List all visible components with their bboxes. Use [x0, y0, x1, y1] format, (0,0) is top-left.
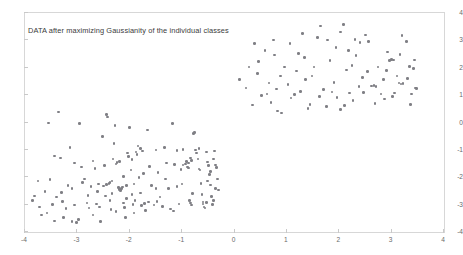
- data-point: [197, 158, 200, 161]
- data-point: [111, 192, 114, 195]
- data-point: [309, 103, 312, 106]
- data-point: [115, 210, 118, 213]
- plot-area: [24, 12, 445, 233]
- data-point: [171, 122, 174, 125]
- data-point: [406, 77, 409, 80]
- data-point: [155, 187, 158, 190]
- data-point: [382, 78, 385, 81]
- data-point: [313, 66, 316, 69]
- data-point: [352, 99, 355, 102]
- data-point: [178, 203, 181, 206]
- x-axis-tick-label: -4: [14, 236, 34, 243]
- data-points-layer: [25, 13, 444, 232]
- data-point: [133, 212, 136, 215]
- x-axis-tick-label: 0: [224, 236, 244, 243]
- data-point: [65, 207, 68, 210]
- data-point: [260, 94, 263, 97]
- data-point: [187, 162, 190, 165]
- data-point: [90, 185, 93, 188]
- data-point: [212, 199, 215, 202]
- data-point: [393, 92, 396, 95]
- data-point: [210, 195, 213, 198]
- data-point: [176, 149, 179, 152]
- data-point: [59, 157, 62, 160]
- data-point: [402, 82, 405, 85]
- x-axis-tick-label: 3: [381, 236, 401, 243]
- data-point: [303, 56, 306, 59]
- data-point: [180, 168, 183, 171]
- data-point: [276, 110, 279, 113]
- data-point: [361, 76, 364, 79]
- data-point: [125, 184, 128, 187]
- data-point: [362, 91, 365, 94]
- data-point: [301, 32, 304, 35]
- data-point: [71, 220, 74, 223]
- data-point: [266, 93, 269, 96]
- data-point: [205, 151, 208, 154]
- data-point: [270, 101, 273, 104]
- data-point: [176, 185, 179, 188]
- data-point: [410, 93, 413, 96]
- data-point: [347, 49, 350, 52]
- x-axis-tick-label: -3: [66, 236, 86, 243]
- data-point: [198, 147, 201, 150]
- data-point: [343, 104, 346, 107]
- data-point: [156, 200, 159, 203]
- data-point: [62, 216, 65, 219]
- data-point: [251, 104, 254, 107]
- data-point: [374, 102, 377, 105]
- data-point: [83, 178, 86, 181]
- data-point: [213, 150, 216, 153]
- data-point: [153, 204, 156, 207]
- data-point: [335, 46, 338, 49]
- page-title: DATA after maximizing Gaussianity of the…: [28, 26, 229, 35]
- data-point: [348, 92, 351, 95]
- data-point: [318, 95, 321, 98]
- data-point: [163, 146, 166, 149]
- data-point: [140, 204, 143, 207]
- data-point: [103, 164, 106, 167]
- data-point: [131, 193, 134, 196]
- data-point: [339, 108, 342, 111]
- data-point: [366, 70, 369, 73]
- data-point: [316, 36, 319, 39]
- data-point: [181, 183, 184, 186]
- data-point: [193, 131, 196, 134]
- data-point: [37, 180, 40, 183]
- y-axis-tick-label: -1: [445, 145, 463, 152]
- data-point: [92, 214, 95, 217]
- data-point: [132, 203, 135, 206]
- data-point: [319, 25, 322, 28]
- scatter-plot-figure: DATA after maximizing Gaussianity of the…: [0, 0, 463, 255]
- data-point: [88, 207, 91, 210]
- data-point: [377, 66, 380, 69]
- data-point: [409, 103, 412, 106]
- data-point: [392, 59, 395, 62]
- data-point: [206, 180, 209, 183]
- data-point: [128, 126, 131, 129]
- data-point: [207, 164, 210, 167]
- data-point: [77, 218, 80, 221]
- data-point: [138, 176, 141, 179]
- data-point: [155, 149, 158, 152]
- data-point: [415, 87, 418, 90]
- data-point: [380, 93, 383, 96]
- data-point: [150, 184, 153, 187]
- data-point: [111, 180, 114, 183]
- data-point: [143, 202, 146, 205]
- data-point: [97, 183, 100, 186]
- data-point: [245, 87, 248, 90]
- data-point: [96, 190, 99, 193]
- data-point: [212, 158, 215, 161]
- data-point: [383, 98, 386, 101]
- data-point: [46, 212, 49, 215]
- data-point: [172, 210, 175, 213]
- data-point: [133, 183, 136, 186]
- data-point: [69, 146, 72, 149]
- data-point: [139, 192, 142, 195]
- data-point: [105, 183, 108, 186]
- data-point: [73, 204, 76, 207]
- data-point: [165, 162, 168, 165]
- data-point: [385, 69, 388, 72]
- data-point: [44, 190, 47, 193]
